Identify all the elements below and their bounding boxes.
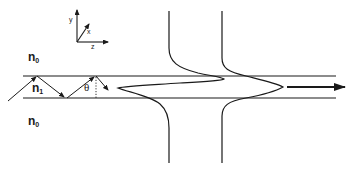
cladding-bottom-index-label: n0 <box>28 115 39 128</box>
mode-profile-2 <box>222 11 283 163</box>
angle-theta-label: θ <box>84 82 89 93</box>
zigzag-ray <box>8 76 108 101</box>
diagram-graphics <box>0 0 351 171</box>
core-index-label: n1 <box>32 82 43 95</box>
x-axis-label: x <box>87 28 91 35</box>
coordinate-axes-icon <box>77 10 108 42</box>
z-axis-label: z <box>91 43 95 50</box>
waveguide-diagram: y x z n0 n1 n0 θ <box>0 0 351 171</box>
cladding-top-index-label: n0 <box>28 51 39 64</box>
y-axis-label: y <box>69 16 73 23</box>
mode-profile-1 <box>118 11 224 163</box>
